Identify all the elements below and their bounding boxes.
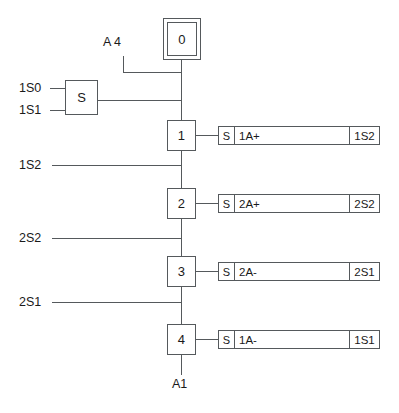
input-line-1s1 (50, 110, 66, 111)
step-number-3: 3 (178, 265, 185, 278)
step-box-2[interactable]: 2 (167, 188, 196, 219)
condition-a4-join-line (123, 72, 182, 73)
start-condition-s-label: S (77, 90, 86, 105)
action-feedback-4: 1S1 (349, 331, 379, 348)
action-qualifier-3: S (219, 263, 235, 280)
link-step0-to-step1 (181, 60, 182, 120)
initial-step-inner-frame: 0 (167, 22, 197, 56)
action-box-4[interactable]: S 1A- 1S1 (218, 330, 380, 349)
initial-step-number: 0 (178, 33, 185, 46)
initial-step-0[interactable]: 0 (163, 18, 201, 60)
step-number-4: 4 (178, 333, 185, 346)
condition-a4-drop-line (123, 56, 124, 73)
sfc-diagram: 0 A 4 1S0 1S1 S 1 S 1A+ 1S2 1S2 2 S 2A+ … (0, 0, 399, 413)
action-link-1 (196, 135, 218, 136)
start-condition-s-block[interactable]: S (65, 80, 98, 115)
action-description-2: 2A+ (235, 195, 349, 212)
step-box-4[interactable]: 4 (167, 324, 196, 355)
transition-line-1s2 (52, 165, 182, 166)
action-qualifier-4: S (219, 331, 235, 348)
action-link-2 (196, 203, 218, 204)
action-description-3: 2A- (235, 263, 349, 280)
action-box-2[interactable]: S 2A+ 2S2 (218, 194, 380, 213)
action-box-3[interactable]: S 2A- 2S1 (218, 262, 380, 281)
action-qualifier-1: S (219, 127, 235, 144)
start-condition-output-line (98, 100, 182, 101)
output-label-a1: A1 (172, 378, 187, 391)
action-description-4: 1A- (235, 331, 349, 348)
action-feedback-1: 1S2 (349, 127, 379, 144)
transition-line-2s2 (52, 238, 182, 239)
action-link-3 (196, 271, 218, 272)
step-box-1[interactable]: 1 (167, 120, 196, 151)
action-description-1: 1A+ (235, 127, 349, 144)
link-step3-to-step4 (181, 287, 182, 324)
transition-line-2s1 (52, 302, 182, 303)
transition-label-1s2: 1S2 (19, 159, 41, 172)
condition-a4-label: A 4 (103, 36, 121, 49)
action-box-1[interactable]: S 1A+ 1S2 (218, 126, 380, 145)
link-step1-to-step2 (181, 151, 182, 188)
action-qualifier-2: S (219, 195, 235, 212)
input-label-1s0: 1S0 (19, 82, 41, 95)
transition-label-2s1: 2S1 (19, 296, 41, 309)
input-line-1s0 (50, 88, 66, 89)
step-number-1: 1 (178, 129, 185, 142)
transition-label-2s2: 2S2 (19, 232, 41, 245)
action-link-4 (196, 339, 218, 340)
step-number-2: 2 (178, 197, 185, 210)
step-box-3[interactable]: 3 (167, 256, 196, 287)
action-feedback-2: 2S2 (349, 195, 379, 212)
input-label-1s1: 1S1 (19, 104, 41, 117)
link-step4-to-output (181, 355, 182, 375)
action-feedback-3: 2S1 (349, 263, 379, 280)
